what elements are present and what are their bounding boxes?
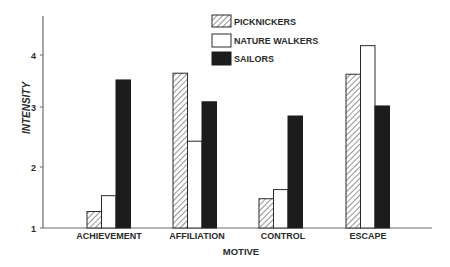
bar-nature-walkers-escape bbox=[361, 46, 376, 228]
y-tick-label: 2 bbox=[31, 163, 36, 173]
y-axis-title: INTENSITY bbox=[21, 81, 32, 135]
x-category-label: ACHIEVEMENT bbox=[76, 231, 142, 241]
bar-picknickers-escape bbox=[346, 74, 361, 228]
bar-nature-walkers-achievement bbox=[102, 196, 117, 228]
bar-picknickers-affiliation bbox=[173, 73, 188, 228]
bar-chart: 1234 ACHIEVEMENTAFFILIATIONCONTROLESCAPE… bbox=[0, 0, 450, 267]
legend-swatch-sailors bbox=[212, 52, 231, 65]
legend-swatch-picknickers bbox=[212, 15, 231, 27]
x-category-label: AFFILIATION bbox=[169, 231, 224, 241]
legend: PICKNICKERS NATURE WALKERS SAILORS bbox=[212, 15, 318, 65]
x-category-label: ESCAPE bbox=[349, 231, 386, 241]
x-axis-category-labels: ACHIEVEMENTAFFILIATIONCONTROLESCAPE bbox=[76, 231, 386, 241]
legend-label-sailors: SAILORS bbox=[234, 54, 274, 64]
x-axis-title: MOTIVE bbox=[223, 246, 259, 257]
legend-label-picknickers: PICKNICKERS bbox=[234, 17, 296, 27]
bar-picknickers-control bbox=[259, 199, 274, 228]
x-category-label: CONTROL bbox=[261, 231, 306, 241]
bar-sailors-control bbox=[288, 116, 303, 228]
legend-label-nature-walkers: NATURE WALKERS bbox=[234, 36, 318, 46]
bar-sailors-achievement bbox=[116, 80, 131, 228]
bar-sailors-affiliation bbox=[202, 102, 217, 228]
bar-series bbox=[87, 46, 390, 228]
legend-swatch-nature-walkers bbox=[212, 34, 231, 47]
y-tick-label: 4 bbox=[31, 51, 36, 61]
bar-sailors-escape bbox=[375, 106, 390, 228]
bar-picknickers-achievement bbox=[87, 212, 102, 228]
y-axis-ticks: 1234 bbox=[31, 51, 43, 234]
y-tick-label: 1 bbox=[31, 224, 36, 234]
bar-nature-walkers-control bbox=[274, 190, 289, 228]
bar-nature-walkers-affiliation bbox=[188, 141, 203, 228]
